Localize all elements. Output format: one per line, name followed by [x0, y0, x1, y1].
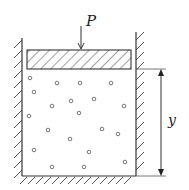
gas-particle [122, 104, 126, 108]
gas-particle [87, 150, 91, 154]
right-wall [136, 32, 144, 176]
gas-particle [69, 99, 73, 103]
gas-particle [32, 148, 36, 152]
arrow-down-icon [158, 169, 164, 176]
gas-particle [109, 81, 113, 85]
bottom-wall [20, 176, 136, 184]
gas-particle [46, 128, 50, 132]
gas-particle [50, 104, 54, 108]
arrow-up-icon [158, 69, 164, 76]
piston [27, 50, 131, 69]
gas-particles [27, 76, 127, 169]
gas-particle [82, 165, 86, 169]
gas-particle [116, 132, 120, 136]
piston-cylinder-diagram: P y [0, 0, 189, 190]
force-label: P [85, 12, 97, 30]
force-arrow [78, 26, 84, 49]
gas-particle [32, 90, 36, 94]
gas-particle [68, 137, 72, 141]
gas-particle [55, 81, 59, 85]
left-wall [14, 38, 22, 178]
gas-particle [123, 160, 127, 164]
gas-particle [50, 165, 54, 169]
gas-particle [100, 127, 104, 131]
gas-particle [27, 114, 31, 118]
height-label: y [167, 112, 177, 128]
gas-particle [28, 76, 32, 80]
gas-particle [78, 81, 82, 85]
gas-particle [92, 97, 96, 101]
gas-particle [77, 111, 81, 115]
